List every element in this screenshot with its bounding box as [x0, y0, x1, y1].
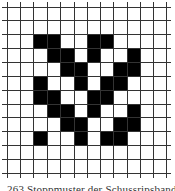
- filled-cell: [60, 117, 75, 132]
- grid-line-horizontal: [2, 90, 171, 91]
- grid-line-horizontal: [2, 117, 171, 118]
- filled-cell: [113, 62, 128, 77]
- filled-cell: [100, 90, 114, 105]
- filled-cell: [127, 117, 141, 132]
- filled-cell: [100, 76, 114, 91]
- filled-cell: [74, 131, 88, 146]
- grid-line-horizontal: [2, 159, 171, 160]
- filled-cell: [47, 34, 61, 49]
- filled-cell: [100, 34, 114, 49]
- filled-cell: [33, 90, 48, 105]
- filled-cell: [60, 104, 75, 118]
- grid-line-horizontal: [2, 131, 171, 132]
- filled-cell: [60, 48, 75, 63]
- grid-line-horizontal: [2, 76, 171, 77]
- grid-line-horizontal: [2, 20, 171, 21]
- grid-line-horizontal: [2, 7, 171, 8]
- filled-cell: [127, 62, 141, 77]
- grid-line-horizontal: [2, 145, 171, 146]
- filled-cell: [100, 131, 114, 146]
- grid-line-horizontal: [2, 62, 171, 63]
- filled-cell: [127, 48, 141, 63]
- filled-cell: [87, 34, 101, 49]
- grid-line-horizontal: [2, 48, 171, 49]
- filled-cell: [47, 90, 61, 105]
- grid-line-horizontal: [2, 173, 171, 174]
- filled-cell: [47, 104, 61, 118]
- filled-cell: [33, 131, 48, 146]
- filled-cell: [87, 90, 101, 105]
- weave-pattern-diagram: 263 Stoppmuster der Schussripsband: [0, 0, 175, 191]
- grid-line-horizontal: [2, 34, 171, 35]
- filled-cell: [74, 62, 88, 77]
- grid-line-horizontal: [2, 104, 171, 105]
- filled-cell: [113, 76, 128, 91]
- figure-caption: 263 Stoppmuster der Schussripsband: [7, 183, 175, 191]
- filled-cell: [33, 34, 48, 49]
- filled-cell: [127, 104, 141, 118]
- filled-cell: [74, 117, 88, 132]
- filled-cell: [47, 48, 61, 63]
- filled-cell: [113, 117, 128, 132]
- filled-cell: [87, 104, 101, 118]
- filled-cell: [33, 76, 48, 91]
- filled-cell: [87, 48, 101, 63]
- filled-cell: [74, 76, 88, 91]
- filled-cell: [113, 131, 128, 146]
- filled-cell: [60, 62, 75, 77]
